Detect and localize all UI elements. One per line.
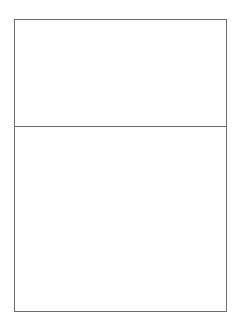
diagram-frame bbox=[14, 19, 227, 312]
panel-divider bbox=[14, 126, 227, 127]
